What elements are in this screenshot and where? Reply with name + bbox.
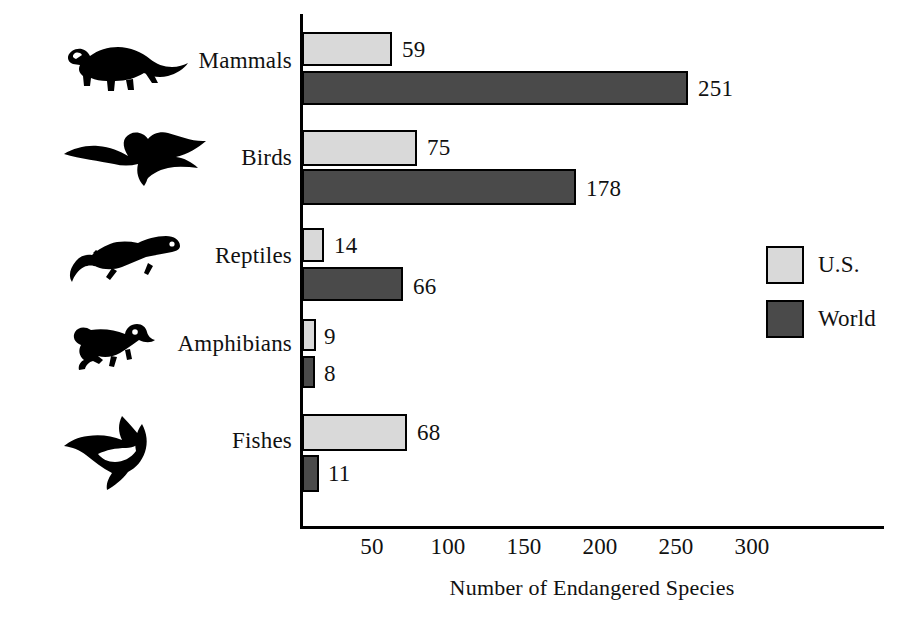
bar-reptiles-world [302,267,403,301]
bar-value-amphibians-world: 8 [324,361,336,387]
bar-fishes-world [302,455,319,492]
x-tick-150: 150 [494,534,554,560]
legend-swatch-us [766,246,804,284]
bar-value-fishes-world: 11 [328,461,351,487]
category-label-fishes: Fishes [168,428,292,454]
category-label-amphibians: Amphibians [168,331,292,357]
category-label-mammals: Mammals [168,48,292,74]
bar-fishes-us [302,414,407,451]
x-tick-100: 100 [418,534,478,560]
legend-swatch-world [766,300,804,338]
bar-mammals-world [302,71,688,105]
bar-value-reptiles-us: 14 [334,233,357,259]
bar-mammals-us [302,32,392,66]
bar-value-fishes-us: 68 [417,420,440,446]
endangered-species-bar-chart: Types of Species Number of Endangered Sp… [0,0,904,621]
legend-label-us: U.S. [818,252,860,278]
bar-reptiles-us [302,228,324,262]
bar-amphibians-us [302,319,316,351]
bar-birds-us [302,130,417,166]
bar-value-amphibians-us: 9 [324,324,336,350]
bar-value-mammals-us: 59 [402,37,425,63]
legend-item-us: U.S. [766,246,860,284]
bar-amphibians-world [302,356,315,388]
bar-birds-world [302,169,576,205]
legend-item-world: World [766,300,876,338]
bar-value-birds-us: 75 [427,135,450,161]
x-tick-300: 300 [722,534,782,560]
x-tick-50: 50 [342,534,402,560]
legend-label-world: World [818,306,876,332]
category-label-birds: Birds [168,145,292,171]
bar-value-birds-world: 178 [586,176,621,202]
x-tick-250: 250 [646,534,706,560]
x-tick-200: 200 [570,534,630,560]
bar-value-mammals-world: 251 [698,76,733,102]
bar-value-reptiles-world: 66 [413,274,436,300]
category-label-reptiles: Reptiles [168,243,292,269]
